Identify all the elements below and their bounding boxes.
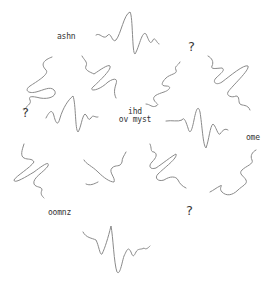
label-ome: ome (246, 133, 260, 142)
zigzag-upper-left-outer (24, 57, 55, 110)
label-ashn: ashn (57, 32, 75, 41)
zigzag-lower-left-outer (14, 144, 48, 198)
question-mark-left: ? (22, 106, 29, 119)
center-label-line2: ov myst (113, 116, 157, 124)
wave-top (96, 12, 159, 54)
center-label: ihd ov myst (113, 108, 157, 124)
wave-right-middle (166, 108, 228, 148)
wave-left-middle (46, 96, 98, 132)
zigzag-lower-right-inner (150, 144, 186, 188)
wave-bottom (83, 226, 150, 273)
zigzag-upper-right-inner (146, 62, 180, 107)
zigzag-upper-left-inner (82, 56, 117, 98)
zigzag-upper-right-outer (208, 56, 250, 110)
question-mark-bottom-right: ? (186, 204, 193, 217)
question-mark-top-right: ? (188, 40, 195, 53)
zigzag-lower-left-inner (84, 152, 126, 185)
wave-drawings (0, 0, 274, 284)
diagram-canvas: ihd ov myst ashn ome oomnz ? ? ? (0, 0, 274, 284)
zigzag-lower-right-outer (210, 150, 256, 195)
label-oomnz: oomnz (48, 208, 71, 217)
